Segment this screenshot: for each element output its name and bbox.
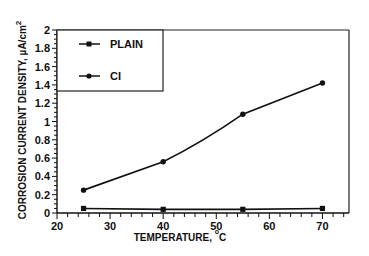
- square-marker-icon: [240, 207, 245, 212]
- x-tick-label: 30: [104, 220, 116, 232]
- legend-label-plain: PLAIN: [110, 38, 143, 50]
- series-layer: [81, 80, 325, 212]
- x-tick-label: 60: [263, 220, 275, 232]
- y-tick-label: 1.8: [35, 42, 50, 54]
- legend: PLAIN CI: [57, 30, 163, 91]
- x-tick-label: 20: [51, 220, 63, 232]
- legend-label-ci: CI: [110, 70, 121, 82]
- x-tick-label: 70: [316, 220, 328, 232]
- y-tick-label: 0: [44, 207, 50, 219]
- y-tick-label: 1.6: [35, 61, 50, 73]
- x-tick-label: 40: [157, 220, 169, 232]
- square-marker-icon: [81, 206, 86, 211]
- chart: 00.20.40.60.811.21.41.61.82 203040506070…: [0, 0, 369, 256]
- x-axis-unit: C: [219, 232, 226, 243]
- y-tick-label: 0.6: [35, 152, 50, 164]
- y-tick-label: 1: [44, 116, 50, 128]
- square-marker-icon: [87, 42, 92, 47]
- y-tick-label: 0.8: [35, 134, 50, 146]
- y-tick-label: 0.4: [35, 170, 51, 182]
- series-line-ci: [84, 83, 323, 190]
- y-tick-label: 2: [44, 24, 50, 36]
- square-marker-icon: [161, 207, 166, 212]
- x-axis-title-text: TEMPERATURE,: [134, 232, 215, 243]
- series-line-plain: [84, 208, 323, 209]
- y-axis-title-text: CORROSION CURRENT DENSITY, µA/cm: [17, 25, 28, 219]
- superscript-2: 2: [14, 20, 23, 25]
- circle-marker-icon: [86, 73, 91, 78]
- y-tick-label: 1.2: [35, 97, 50, 109]
- x-axis: 203040506070: [51, 213, 344, 232]
- y-axis-title: CORROSION CURRENT DENSITY, µA/cm2: [14, 20, 28, 219]
- circle-marker-icon: [320, 80, 325, 85]
- y-tick-label: 1.4: [35, 79, 51, 91]
- circle-marker-icon: [240, 111, 245, 116]
- y-axis: 00.20.40.60.811.21.41.61.82: [35, 24, 57, 219]
- y-tick-label: 0.2: [35, 189, 50, 201]
- circle-marker-icon: [160, 159, 165, 164]
- circle-marker-icon: [81, 187, 86, 192]
- square-marker-icon: [320, 206, 325, 211]
